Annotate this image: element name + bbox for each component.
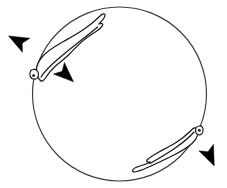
organism-upper-left-head-dot [32, 74, 35, 77]
figure-canvas [0, 0, 227, 188]
figure-background [0, 0, 227, 188]
figure-container [0, 0, 227, 188]
organism-lower-right-head-dot [198, 129, 201, 132]
